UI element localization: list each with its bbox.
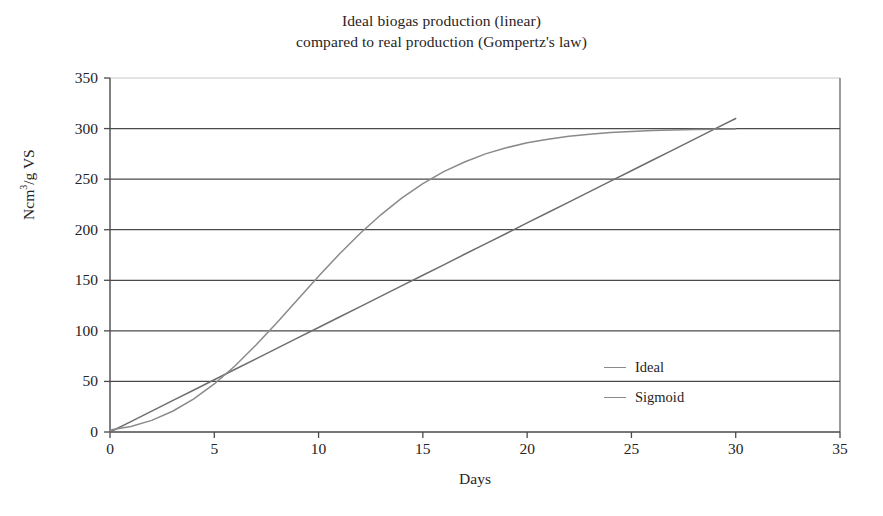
legend-swatch-sigmoid xyxy=(604,397,626,398)
legend-item-sigmoid: Sigmoid xyxy=(604,382,684,412)
chart-figure: Ideal biogas production (linear) compare… xyxy=(0,0,883,516)
legend-label-sigmoid: Sigmoid xyxy=(635,389,684,406)
chart-legend: Ideal Sigmoid xyxy=(604,352,684,412)
plot-area xyxy=(0,0,883,516)
legend-label-ideal: Ideal xyxy=(635,359,664,376)
gridlines xyxy=(110,78,840,381)
legend-item-ideal: Ideal xyxy=(604,352,684,382)
legend-swatch-ideal xyxy=(604,367,626,368)
